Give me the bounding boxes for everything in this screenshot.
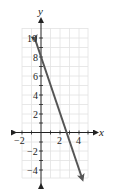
x-tick-4: 4 <box>76 135 81 146</box>
axes <box>14 20 96 186</box>
tick-labels: y x 10 8 6 4 2 −2 −4 −2 2 4 <box>14 5 104 176</box>
x-axis-label: x <box>98 126 104 138</box>
y-axis-label: y <box>37 5 43 17</box>
x-tick-neg2: −2 <box>14 135 25 146</box>
y-tick-6: 6 <box>33 71 38 82</box>
y-tick-4: 4 <box>33 90 38 101</box>
y-tick-neg4: −4 <box>27 165 38 176</box>
x-tick-2: 2 <box>57 135 62 146</box>
y-tick-neg2: −2 <box>27 146 38 157</box>
y-tick-10: 10 <box>27 33 37 44</box>
line-graph: y x 10 8 6 4 2 −2 −4 −2 2 4 <box>0 0 116 193</box>
y-tick-8: 8 <box>33 52 38 63</box>
y-tick-2: 2 <box>33 109 38 120</box>
data-line <box>35 39 82 178</box>
